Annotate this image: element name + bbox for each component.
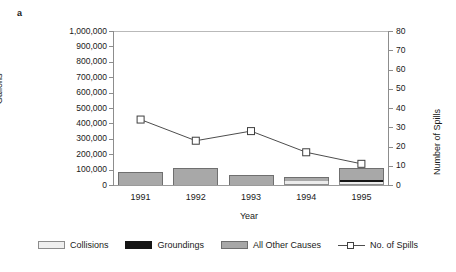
x-tick-label: 1992 [168, 192, 224, 202]
legend-swatch-icon [125, 241, 152, 249]
legend-item-label: Groundings [157, 240, 204, 250]
legend-swatch-icon [221, 241, 248, 249]
x-tick-label: 1993 [223, 192, 279, 202]
y-tick-label-left: 100,000 [45, 165, 107, 174]
y-tick-mark-right [389, 127, 393, 128]
legend-item-all-other-causes[interactable]: All Other Causes [221, 240, 321, 250]
spills-data-marker [358, 160, 365, 167]
legend-item-label: Collisions [70, 240, 109, 250]
y-tick-label-left: 400,000 [45, 119, 107, 128]
y-tick-label-left: 600,000 [45, 88, 107, 97]
x-axis-title-text: Year [240, 211, 258, 221]
y-tick-label-right: 20 [396, 142, 420, 151]
x-tick-label: 1994 [278, 192, 334, 202]
chart-figure: a Gallons Number of Spills Year 0100,000… [0, 0, 456, 272]
y-tick-label-right: 10 [396, 161, 420, 170]
line-series-spills [113, 31, 389, 186]
y-axis-title-right: Number of Spills [432, 109, 442, 175]
y-tick-mark-right [389, 108, 393, 109]
y-tick-label-right: 50 [396, 84, 420, 93]
legend-swatch-icon [38, 241, 65, 249]
legend-item-groundings[interactable]: Groundings [125, 240, 204, 250]
spills-data-marker [137, 116, 144, 123]
y-tick-label-left: 200,000 [45, 150, 107, 159]
y-tick-label-right: 60 [396, 65, 420, 74]
y-tick-label-right: 80 [396, 27, 420, 36]
spills-data-marker [192, 137, 199, 144]
y-tick-label-left: 300,000 [45, 134, 107, 143]
y-tick-label-left: 700,000 [45, 73, 107, 82]
legend-line-marker-icon [338, 241, 365, 250]
x-tick-label: 1995 [333, 192, 389, 202]
y-tick-label-left: 500,000 [45, 104, 107, 113]
y-tick-mark-right [389, 31, 393, 32]
y-tick-label-right: 70 [396, 46, 420, 55]
y-tick-label-right: 0 [396, 181, 420, 190]
y-tick-label-left: 800,000 [45, 57, 107, 66]
y-tick-label-left: 1,000,000 [45, 27, 107, 36]
y-tick-label-left: 0 [45, 181, 107, 190]
y-tick-mark-right [389, 50, 393, 51]
spills-line-path [141, 120, 362, 164]
y-tick-label-right: 40 [396, 104, 420, 113]
legend-item-no-of-spills[interactable]: No. of Spills [338, 240, 418, 250]
y-tick-label-right: 30 [396, 123, 420, 132]
legend-item-collisions[interactable]: Collisions [38, 240, 109, 250]
chart-legend: CollisionsGroundingsAll Other CausesNo. … [0, 240, 456, 250]
y-tick-mark-right [389, 185, 393, 186]
x-tick-label: 1991 [113, 192, 169, 202]
legend-item-label: All Other Causes [253, 240, 321, 250]
y-tick-mark-right [389, 89, 393, 90]
y-tick-mark-right [389, 70, 393, 71]
y-tick-mark-right [389, 147, 393, 148]
legend-square-marker-icon [347, 242, 354, 249]
y-tick-mark-right [389, 166, 393, 167]
y-axis-title-left: Gallons [0, 73, 4, 104]
panel-letter: a [17, 8, 22, 18]
spills-data-marker [248, 128, 255, 135]
plot-area [113, 31, 389, 186]
x-axis-title: Year [0, 211, 456, 221]
spills-data-marker [303, 149, 310, 156]
y-tick-label-left: 900,000 [45, 42, 107, 51]
legend-item-label: No. of Spills [370, 240, 418, 250]
